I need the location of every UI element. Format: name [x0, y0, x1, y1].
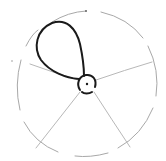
- sketch-diagram: [0, 0, 166, 161]
- tick-mark-top: [85, 10, 87, 12]
- teardrop-loop: [37, 22, 84, 79]
- hub-center-dot: [86, 83, 88, 85]
- spoke-lower-left: [36, 92, 80, 148]
- spoke-lower-right: [94, 92, 130, 147]
- tick-mark-left: [11, 60, 13, 62]
- spoke-right: [96, 62, 152, 80]
